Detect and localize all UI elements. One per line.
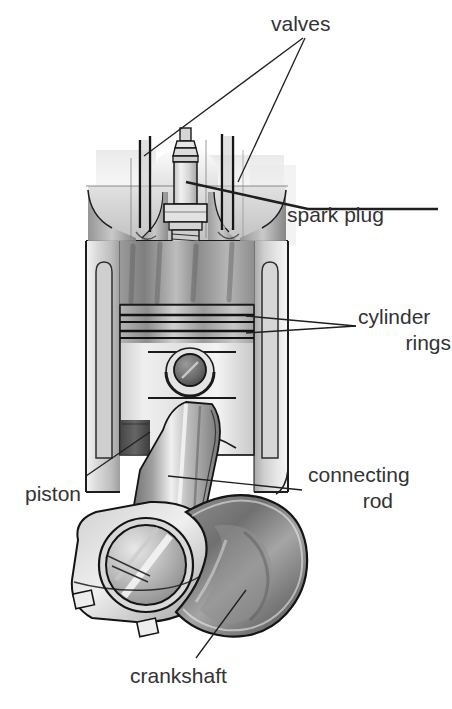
wrist-pin [166, 348, 214, 396]
diagram-canvas: valves spark plug cylinder rings piston … [0, 0, 452, 709]
label-valves: valves [271, 12, 331, 36]
label-cylinder-rings-line2: rings [358, 331, 451, 355]
label-spark-plug: spark plug [287, 203, 384, 227]
label-crankshaft: crankshaft [130, 664, 227, 688]
label-piston: piston [25, 482, 81, 506]
label-connecting-rod-line2: rod [308, 489, 393, 513]
label-connecting-rod-line1: connecting [308, 463, 410, 487]
combustion-chamber [120, 241, 254, 305]
label-cylinder-rings-line1: cylinder [358, 305, 430, 329]
